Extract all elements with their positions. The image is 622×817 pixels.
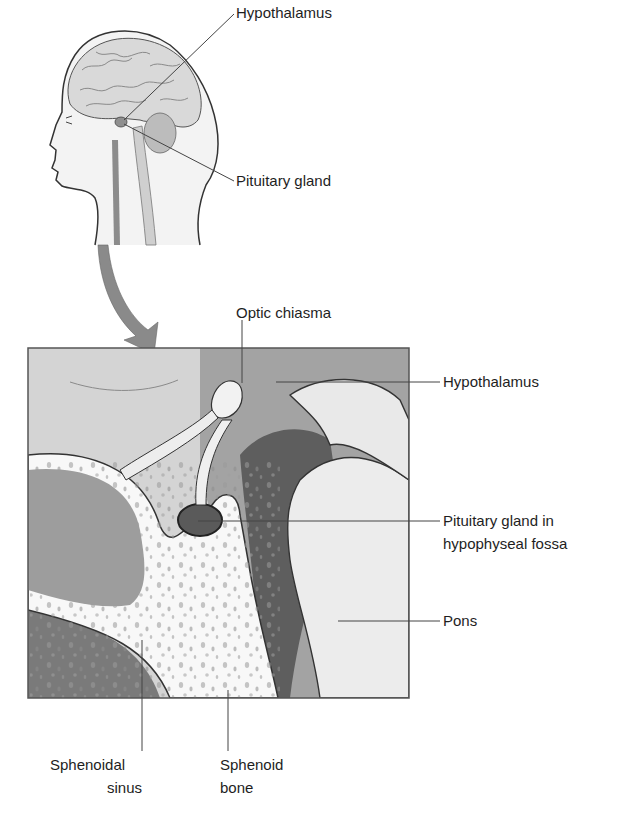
cerebellum [144,113,176,153]
label-pituitary-in-fossa-line2: hypophyseal fossa [443,535,567,553]
label-hypothalamus-detail: Hypothalamus [443,373,539,391]
label-hypothalamus-head: Hypothalamus [236,4,332,22]
pituitary-gland [178,504,222,536]
label-sphenoid-bone: Sphenoid bone [220,756,283,797]
label-sphenoidal-sinus-line2: sinus [50,779,142,797]
brain [68,38,201,127]
label-pituitary-gland-head: Pituitary gland [236,172,331,190]
label-sphenoid-bone-line2: bone [220,779,283,797]
label-sphenoidal-sinus-line1: Sphenoidal [50,756,142,774]
label-pituitary-in-fossa: Pituitary gland in hypophyseal fossa [443,512,567,553]
diagram-artwork [0,0,622,817]
head-illustration [50,14,234,245]
label-sphenoidal-sinus: Sphenoidal sinus [50,756,142,797]
cross-section-view [28,348,409,698]
zoom-arrow [98,245,158,354]
label-pons: Pons [443,612,477,630]
label-pituitary-in-fossa-line1: Pituitary gland in [443,512,567,530]
label-sphenoid-bone-line1: Sphenoid [220,756,283,774]
label-optic-chiasma: Optic chiasma [236,304,331,322]
